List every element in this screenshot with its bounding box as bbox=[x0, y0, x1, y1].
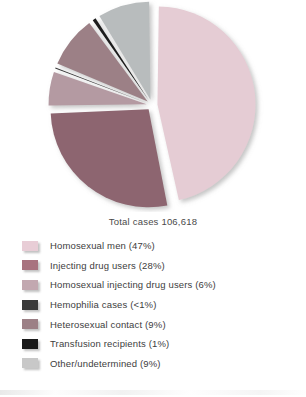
legend-item: Homosexual injecting drug users (6%) bbox=[22, 275, 306, 295]
legend-item: Hemophilia cases (<1%) bbox=[22, 295, 306, 315]
legend-item: Other/undetermined (9%) bbox=[22, 354, 306, 374]
legend-item-label: Homosexual injecting drug users (6%) bbox=[50, 279, 216, 290]
total-cases-caption: Total cases 106,618 bbox=[0, 214, 306, 230]
legend-color-swatch bbox=[22, 260, 38, 270]
legend-color-swatch bbox=[22, 241, 38, 251]
legend-item-label: Homosexual men (47%) bbox=[50, 240, 155, 251]
pie-slices-svg bbox=[0, 0, 306, 212]
legend-color-swatch bbox=[22, 300, 38, 310]
chart-legend: Homosexual men (47%)Injecting drug users… bbox=[0, 236, 306, 373]
pie-chart-figure: Total cases 106,618 Homosexual men (47%)… bbox=[0, 0, 306, 397]
legend-item-label: Heterosexual contact (9%) bbox=[50, 319, 166, 330]
legend-color-swatch bbox=[22, 319, 38, 329]
legend-swatch-wrap bbox=[22, 280, 38, 290]
legend-swatch-wrap bbox=[22, 319, 38, 329]
legend-item: Heterosexual contact (9%) bbox=[22, 314, 306, 334]
pie-slice bbox=[51, 109, 168, 207]
legend-swatch-wrap bbox=[22, 358, 38, 368]
legend-item: Injecting drug users (28%) bbox=[22, 256, 306, 276]
scan-artifact bbox=[0, 390, 306, 395]
legend-item: Homosexual men (47%) bbox=[22, 236, 306, 256]
legend-color-swatch bbox=[22, 339, 38, 349]
legend-color-swatch bbox=[22, 280, 38, 290]
legend-color-swatch bbox=[22, 358, 38, 368]
legend-swatch-wrap bbox=[22, 339, 38, 349]
legend-item-label: Other/undetermined (9%) bbox=[50, 358, 161, 369]
legend-item-label: Injecting drug users (28%) bbox=[50, 260, 165, 271]
legend-swatch-wrap bbox=[22, 260, 38, 270]
legend-swatch-wrap bbox=[22, 300, 38, 310]
legend-item: Transfusion recipients (1%) bbox=[22, 334, 306, 354]
pie-chart-plot bbox=[0, 0, 306, 212]
legend-swatch-wrap bbox=[22, 241, 38, 251]
legend-item-label: Hemophilia cases (<1%) bbox=[50, 299, 157, 310]
pie-slice bbox=[157, 6, 255, 200]
legend-item-label: Transfusion recipients (1%) bbox=[50, 338, 169, 349]
